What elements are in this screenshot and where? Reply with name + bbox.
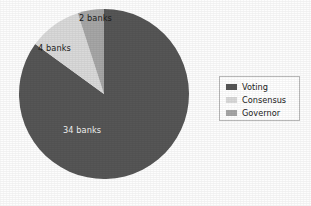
legend-item-governor[interactable]: Governor [226, 107, 299, 119]
pie-slice-label-voting: 34 banks [63, 126, 101, 134]
legend-label-voting: Voting [242, 83, 268, 91]
legend-item-voting[interactable]: Voting [226, 81, 299, 93]
legend-label-governor: Governor [242, 109, 280, 117]
pie-slice-label-governor: 2 banks [79, 14, 112, 22]
legend-swatch-voting [226, 84, 237, 90]
pie-chart-figure: 34 banks 4 banks 2 banks Voting Consensu… [0, 0, 311, 206]
legend-item-consensus[interactable]: Consensus [226, 94, 299, 106]
pie-svg [0, 0, 210, 206]
legend-swatch-governor [226, 110, 237, 116]
chart-legend: Voting Consensus Governor [219, 76, 300, 121]
legend-label-consensus: Consensus [242, 96, 286, 104]
legend-swatch-consensus [226, 97, 237, 103]
pie-plot-area: 34 banks 4 banks 2 banks [0, 0, 210, 206]
pie-slice-label-consensus: 4 banks [38, 44, 71, 52]
